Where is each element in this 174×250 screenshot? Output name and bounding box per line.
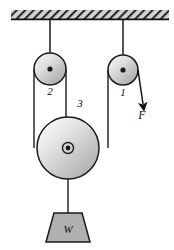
pulley-1 bbox=[108, 55, 138, 85]
pulley-3 bbox=[37, 117, 99, 179]
pulley-2-hub-dot bbox=[47, 66, 52, 71]
force-label-F: F bbox=[137, 108, 146, 122]
diagram-canvas: 2 1 3 F W bbox=[0, 0, 174, 250]
hatched-ceiling-support bbox=[11, 10, 169, 19]
weight-label-W: W bbox=[63, 223, 73, 235]
pulley-3-label: 3 bbox=[76, 97, 83, 109]
pulley-2 bbox=[34, 53, 66, 85]
pulley-2-label: 2 bbox=[47, 85, 53, 97]
pulley-3-hub-dot bbox=[66, 146, 71, 151]
pulley-1-label: 1 bbox=[120, 86, 126, 98]
ceiling-hatch-fill bbox=[11, 10, 169, 19]
pulley-1-hub-dot bbox=[120, 67, 125, 72]
pulley-diagram-figure: 2 1 3 F W bbox=[0, 0, 174, 250]
force-arrow-F bbox=[138, 70, 143, 104]
